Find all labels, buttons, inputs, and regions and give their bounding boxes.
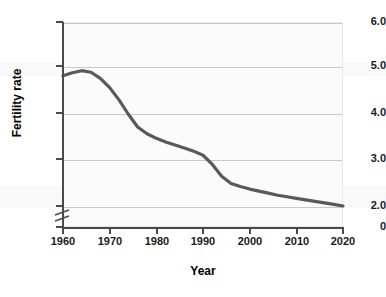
x-axis-title: Year: [63, 264, 343, 278]
x-tick-label-1990: 1990: [178, 236, 228, 247]
x-tick-label-1970: 1970: [85, 236, 135, 247]
y-axis-title: Fertility rate: [10, 48, 24, 158]
series-line: [63, 71, 343, 206]
y-tick-label-4: 4.0: [334, 107, 386, 118]
x-tick-mark-1970: [109, 228, 111, 234]
axis-break-icon: [53, 208, 75, 226]
y-tick-mark-3: [56, 158, 63, 160]
x-tick-label-2010: 2010: [272, 236, 322, 247]
y-tick-label-2: 2.0: [334, 200, 386, 211]
x-tick-label-1960: 1960: [38, 236, 88, 247]
y-tick-label-6: 6.0: [334, 16, 386, 27]
x-tick-mark-2020: [342, 228, 344, 234]
x-tick-mark-1980: [156, 228, 158, 234]
x-tick-mark-2010: [296, 228, 298, 234]
y-tick-mark-2: [56, 205, 63, 207]
x-tick-mark-1960: [62, 228, 64, 234]
y-tick-label-3: 3.0: [334, 153, 386, 164]
x-tick-label-2000: 2000: [225, 236, 275, 247]
chart-figure: and the sub 6.0 5.0 4.0 3.0 2.0 0 1960 1…: [0, 0, 386, 297]
y-tick-mark-6: [56, 21, 63, 23]
x-tick-label-2020: 2020: [318, 236, 368, 247]
y-tick-label-5: 5.0: [334, 60, 386, 71]
x-tick-label-1980: 1980: [132, 236, 182, 247]
series-fertility-rate: [63, 22, 343, 227]
x-tick-mark-1990: [202, 228, 204, 234]
y-tick-mark-4: [56, 112, 63, 114]
y-tick-mark-5: [56, 65, 63, 67]
x-tick-mark-2000: [249, 228, 251, 234]
y-axis: [62, 22, 64, 227]
